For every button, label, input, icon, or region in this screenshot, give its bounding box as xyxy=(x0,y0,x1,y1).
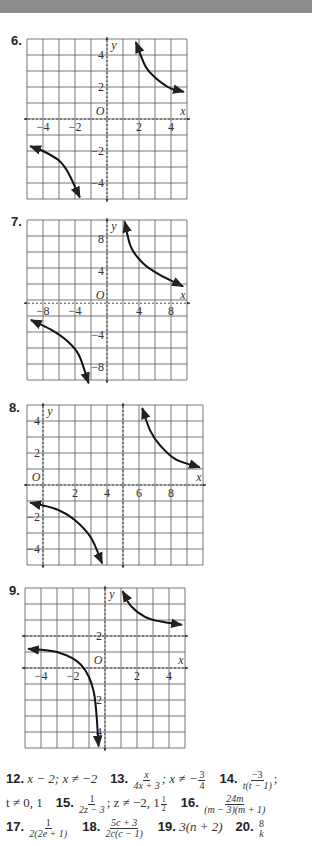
answer-20-number: 20. xyxy=(236,819,254,834)
x-axis-label: x xyxy=(177,653,184,667)
denominator: k xyxy=(258,829,264,839)
answer-line-3: 17. 12(2e + 1) 18. 5c + 32c(c − 1) 19. 3… xyxy=(6,818,266,840)
answer-15-restriction: ; z ≠ −2, 1 xyxy=(107,795,160,810)
answer-15-fraction: 12z − 3 xyxy=(78,794,106,815)
answer-14-number: 14. xyxy=(219,771,237,786)
y-tick-label: −4 xyxy=(89,725,102,739)
problem-number-6: 6. xyxy=(11,33,22,48)
answer-13-restriction-fraction: 34 xyxy=(198,770,205,791)
answer-12-text: x − 2; x ≠ −2 xyxy=(27,771,97,786)
denominator: 2c(c − 1) xyxy=(105,829,144,839)
denominator: 2(2e + 1) xyxy=(28,829,68,839)
denominator: (m − 3)(m + 1) xyxy=(203,805,266,815)
answer-line-2: t ≠ 0, 1 15. 12z − 3; z ≠ −2, 112 16. 24… xyxy=(6,794,267,816)
denominator: 2z − 3 xyxy=(78,805,106,815)
answer-line-1: 12. x − 2; x ≠ −2 13. x4x + 3; x ≠ −34 1… xyxy=(6,770,277,792)
answer-13-fraction: x4x + 3 xyxy=(132,770,160,791)
denominator: 2 xyxy=(161,805,167,813)
answer-13-number: 13. xyxy=(110,771,128,786)
x-tick-label: −4 xyxy=(35,669,48,683)
origin-label: O xyxy=(94,653,103,667)
grid xyxy=(25,588,185,748)
denominator: 4 xyxy=(198,781,205,791)
x-tick-label: −2 xyxy=(67,669,80,683)
answer-15-number: 15. xyxy=(56,795,74,810)
answer-13-restriction: ; x ≠ − xyxy=(162,771,198,786)
denominator: t(t − 1) xyxy=(242,781,273,791)
answer-18-fraction: 5c + 32c(c − 1) xyxy=(105,818,144,839)
answer-17-fraction: 12(2e + 1) xyxy=(28,818,68,839)
answer-12-number: 12. xyxy=(6,771,24,786)
answer-16-number: 16. xyxy=(181,795,199,810)
answer-14-semicolon: ; xyxy=(274,771,278,786)
y-axis-label: y xyxy=(108,587,115,601)
y-tick-label: 2 xyxy=(96,629,102,643)
answer-17-number: 17. xyxy=(6,819,24,834)
answer-19-number: 19. xyxy=(158,819,176,834)
x-tick-label: 2 xyxy=(134,669,140,683)
answer-16-fraction: 24m(m − 3)(m + 1) xyxy=(203,794,266,815)
answer-14-restriction: t ≠ 0, 1 xyxy=(6,795,43,810)
answer-15-mixed-fraction: 12 xyxy=(161,796,167,813)
graph-svg: −4−2242−2−4xyO xyxy=(0,0,312,846)
numerator: 8 xyxy=(258,819,265,829)
denominator: 4x + 3 xyxy=(132,781,160,791)
problem-number-8: 8. xyxy=(9,400,20,415)
answer-14-fraction: −3t(t − 1) xyxy=(242,770,273,791)
x-tick-label: 4 xyxy=(166,669,172,683)
answer-18-number: 18. xyxy=(82,819,100,834)
answer-19-text: 3(n + 2) xyxy=(179,819,222,834)
answer-20-fraction: 8k xyxy=(258,819,265,839)
problem-number-9: 9. xyxy=(9,583,20,598)
problem-number-7: 7. xyxy=(11,214,22,229)
